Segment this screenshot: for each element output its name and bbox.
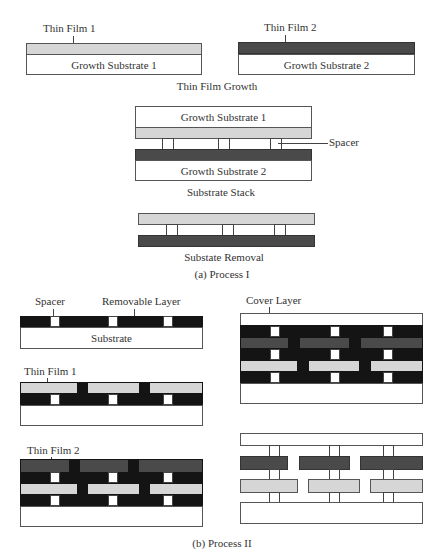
- spacer: [270, 349, 280, 360]
- growth-substrate-1: Growth Substrate 1: [135, 106, 312, 128]
- substrate: [20, 405, 203, 426]
- thin-film-1: [21, 383, 77, 393]
- thin-film-1: [241, 361, 297, 371]
- thin-film-1-label: Thin Film 1: [24, 365, 77, 377]
- process-caption: (b) Process II: [192, 537, 251, 549]
- substrate-label: Growth Substrate 2: [181, 165, 267, 177]
- thin-film-2: [21, 460, 69, 472]
- spacer: [163, 316, 173, 327]
- substrate-label: Growth Substrate 2: [284, 59, 370, 71]
- thin-film-1: [370, 479, 423, 493]
- growth-substrate-2: Growth Substrate 2: [238, 54, 415, 75]
- spacer: [330, 372, 340, 383]
- spacer: [163, 495, 173, 506]
- growth-substrate-1: Growth Substrate 1: [26, 54, 202, 75]
- substrate: [240, 502, 423, 524]
- spacer: [50, 316, 60, 327]
- spacer: [163, 472, 173, 483]
- spacer: [108, 316, 118, 327]
- step-caption: Thin Film Growth: [177, 80, 258, 92]
- thin-film-2: [299, 456, 350, 470]
- thin-film-2: [138, 235, 315, 247]
- spacer: [50, 394, 60, 405]
- spacer-label: Spacer: [329, 136, 359, 148]
- thin-film-1: [308, 479, 360, 493]
- thin-film-2-label: Thin Film 2: [27, 444, 80, 456]
- step-caption: Substate Removal: [184, 251, 264, 263]
- thin-film-1: [88, 484, 139, 494]
- thin-film-1: [240, 479, 298, 493]
- spacer: [383, 372, 393, 383]
- substrate: Substrate: [20, 327, 203, 349]
- growth-substrate-2: Growth Substrate 2: [135, 160, 312, 181]
- spacer: [270, 326, 280, 337]
- spacer: [330, 349, 340, 360]
- thin-film-2: [241, 338, 288, 348]
- spacer: [383, 326, 393, 337]
- spacer: [108, 495, 118, 506]
- thin-film-2-label: Thin Film 2: [264, 21, 317, 33]
- process-caption: (a) Process I: [195, 268, 250, 280]
- thin-film-1: [21, 484, 77, 494]
- thin-film-1: [371, 361, 422, 371]
- thin-film-2: [139, 460, 202, 472]
- substrate: [20, 506, 203, 527]
- removable-layer-label: Removable Layer: [102, 295, 181, 307]
- substrate-label: Growth Substrate 1: [181, 111, 267, 123]
- thin-film-1: [88, 383, 139, 393]
- thin-film-1: [309, 361, 359, 371]
- spacer: [50, 472, 60, 483]
- thin-film-2: [300, 338, 349, 348]
- substrate: [240, 383, 423, 404]
- spacer: [50, 495, 60, 506]
- cover-layer-label: Cover Layer: [246, 294, 301, 306]
- leader-line: [278, 143, 328, 144]
- substrate-label: Growth Substrate 1: [71, 59, 157, 71]
- thin-film-1: [150, 484, 202, 494]
- thin-film-1-label: Thin Film 1: [43, 22, 96, 34]
- spacer-label: Spacer: [35, 295, 65, 307]
- spacer: [108, 394, 118, 405]
- thin-film-2: [238, 42, 415, 54]
- spacer: [108, 472, 118, 483]
- spacer: [330, 326, 340, 337]
- spacer: [270, 372, 280, 383]
- spacer: [163, 394, 173, 405]
- thin-film-1: [150, 383, 202, 393]
- substrate-label: Substrate: [91, 332, 132, 344]
- thin-film-2: [361, 338, 422, 348]
- spacer: [383, 349, 393, 360]
- thin-film-2: [360, 456, 423, 470]
- thin-film-2: [80, 460, 128, 472]
- thin-film-2: [240, 456, 288, 470]
- step-caption: Substrate Stack: [187, 186, 255, 198]
